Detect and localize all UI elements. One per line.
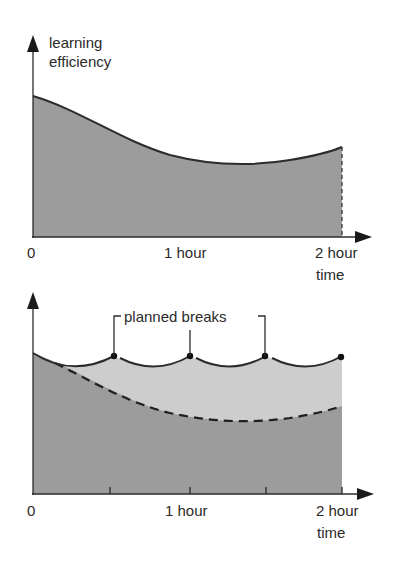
top-tick-1: 1 hour	[164, 244, 207, 261]
bottom-tick-0: 0	[27, 502, 35, 519]
bottom-chart: planned breaks 0 1 hour 2 hour time	[27, 292, 374, 541]
bottom-y-arrow-icon	[27, 292, 39, 309]
bottom-tick-2: 2 hour	[316, 502, 359, 519]
top-y-arrow-icon	[27, 35, 39, 52]
top-area-fill	[33, 96, 342, 237]
top-tick-0: 0	[27, 244, 35, 261]
top-ylabel-line1: learning	[49, 34, 102, 51]
bottom-tick-1: 1 hour	[165, 502, 208, 519]
bottom-x-arrow-icon	[357, 488, 374, 500]
top-chart: learning efficiency 0 1 hour 2 hour time	[27, 34, 372, 283]
top-x-arrow-icon	[355, 231, 372, 243]
break-dot-4	[338, 354, 344, 360]
top-xlabel: time	[316, 266, 344, 283]
top-tick-2: 2 hour	[315, 244, 358, 261]
bottom-xlabel: time	[317, 524, 345, 541]
top-ylabel-line2: efficiency	[49, 53, 112, 70]
diagram-canvas: learning efficiency 0 1 hour 2 hour time…	[0, 0, 400, 566]
planned-breaks-label: planned breaks	[124, 308, 227, 325]
